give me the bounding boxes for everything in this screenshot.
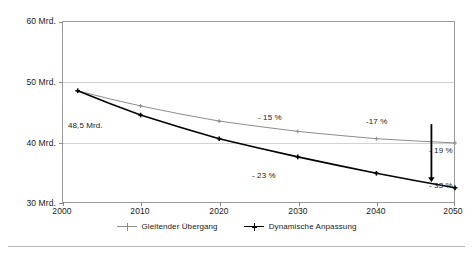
annotation-start-value: 48,5 Mrd.	[68, 121, 103, 130]
x-tick-label-2010: 2010	[115, 206, 165, 216]
x-tick-label-2030: 2030	[273, 206, 323, 216]
y-tick-label-50: 50 Mrd.	[0, 77, 56, 87]
legend-label-gleitender-uebergang: Gleitender Übergang	[142, 222, 218, 231]
gridline-50	[63, 82, 454, 83]
legend-label-dynamische-anpassung: Dynamische Anpassung	[269, 222, 357, 231]
chart-legend: Gleitender Übergang Dynamische Anpassung	[0, 222, 473, 231]
y-tick-label-40: 40 Mrd.	[0, 138, 56, 148]
legend-item-gleitender-uebergang: Gleitender Übergang	[117, 222, 218, 231]
y-tick-mark-50	[59, 82, 63, 83]
gridline-40	[63, 143, 454, 144]
annotation-minus-33: - 33 %	[429, 181, 453, 190]
y-tick-label-60: 60 Mrd.	[0, 16, 56, 26]
bottom-divider	[8, 246, 465, 247]
chart-figure: 60 Mrd. 50 Mrd. 40 Mrd. 30 Mrd. 48,5 Mrd…	[0, 0, 473, 254]
y-tick-mark-60	[59, 22, 63, 23]
x-tick-label-2050: 2050	[428, 206, 473, 216]
x-tick-label-2000: 2000	[37, 206, 87, 216]
x-tick-label-2020: 2020	[194, 206, 244, 216]
annotation-minus-17: -17 %	[366, 117, 387, 126]
x-tick-label-2040: 2040	[351, 206, 401, 216]
annotation-minus-23: - 23 %	[252, 171, 276, 180]
y-tick-mark-40	[59, 143, 63, 144]
annotation-minus-15: - 15 %	[258, 113, 282, 122]
legend-marker-icon-gray	[117, 223, 137, 231]
legend-item-dynamische-anpassung: Dynamische Anpassung	[244, 222, 357, 231]
annotation-minus-19: - 19 %	[429, 146, 453, 155]
legend-marker-icon-black	[244, 223, 264, 231]
